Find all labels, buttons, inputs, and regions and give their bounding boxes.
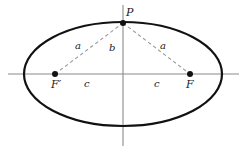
focus-right-label: F [186,79,194,90]
segment-b-label: b [109,43,115,53]
ellipse-diagram-svg [0,0,247,152]
segment-a-left-label: a [75,41,81,51]
focus-left-label: F′ [51,79,61,90]
segment-a-right-label: a [160,41,166,51]
ellipse-figure: P F′ F a b a c c [0,0,247,152]
focus-right-marker [187,71,193,77]
point-p-label: P [126,7,133,18]
focus-left-marker [52,71,58,77]
segment-c-left-label: c [84,79,90,89]
segment-c-right-label: c [154,79,160,89]
point-p-marker [120,20,126,26]
